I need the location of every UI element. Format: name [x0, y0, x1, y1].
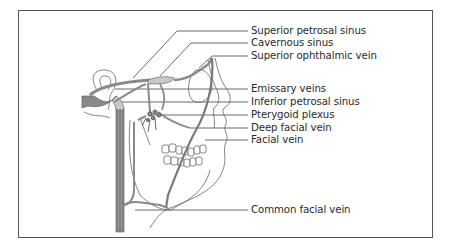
- label-superior-petrosal-sinus: Superior petrosal sinus: [251, 25, 366, 37]
- label-cavernous-sinus: Cavernous sinus: [251, 37, 333, 49]
- label-deep-facial-vein: Deep facial vein: [251, 122, 332, 134]
- label-common-facial-vein: Common facial vein: [251, 204, 350, 216]
- head-veins-diagram: [0, 0, 449, 250]
- label-superior-ophthalmic-vein: Superior ophthalmic vein: [251, 50, 377, 62]
- label-emissary-veins: Emissary veins: [251, 83, 326, 95]
- label-pterygoid-plexus: Pterygoid plexus: [251, 109, 334, 121]
- label-facial-vein: Facial vein: [251, 134, 303, 146]
- veins: [82, 58, 212, 232]
- label-inferior-petrosal-sinus: Inferior petrosal sinus: [251, 96, 360, 108]
